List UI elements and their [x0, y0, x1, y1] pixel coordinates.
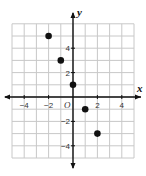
y-axis-label: y [75, 6, 82, 18]
y-axis-arrow-up-icon [71, 12, 76, 18]
y-tick-label: −2 [61, 117, 71, 126]
y-axis-arrow-down-icon [71, 163, 76, 169]
data-point [94, 130, 101, 137]
y-tick-label: 2 [66, 69, 71, 78]
x-tick-label: −2 [44, 101, 54, 110]
x-tick-label: 2 [95, 101, 100, 110]
origin-label: O [64, 100, 71, 110]
coordinate-plane: −4−22442−2−4 x y O [0, 0, 146, 176]
data-point [82, 106, 89, 113]
x-tick-label: 4 [120, 101, 125, 110]
x-axis-arrow-left-icon [4, 95, 10, 100]
x-axis-arrow-right-icon [135, 95, 141, 100]
y-tick-label: 4 [66, 44, 71, 53]
data-point [58, 57, 65, 64]
x-tick-label: −4 [20, 101, 30, 110]
data-point [45, 33, 52, 40]
x-axis-label: x [136, 82, 143, 94]
y-tick-label: −4 [61, 142, 71, 151]
data-point [70, 82, 77, 89]
